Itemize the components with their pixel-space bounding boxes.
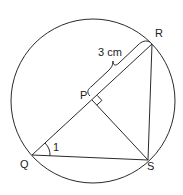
segment-qs: [32, 155, 148, 160]
point-label-s: S: [147, 160, 154, 172]
right-angle-marker: [97, 95, 102, 105]
angle-1-arc: [45, 143, 50, 156]
point-label-p: P: [80, 89, 87, 101]
segment-qr: [32, 44, 152, 155]
segment-ps: [92, 100, 148, 160]
point-label-r: R: [155, 27, 163, 39]
length-label: 3 cm: [98, 46, 122, 58]
geometry-diagram: 3 cm R P Q S 1: [0, 0, 183, 195]
angle-label-1: 1: [53, 141, 59, 153]
point-label-q: Q: [20, 158, 29, 170]
segment-rs: [148, 44, 152, 160]
